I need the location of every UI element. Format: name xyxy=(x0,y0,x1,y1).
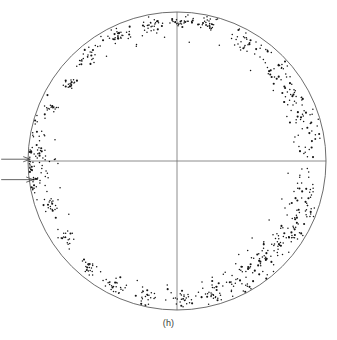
data-point xyxy=(215,286,217,288)
data-point xyxy=(273,83,275,85)
data-point xyxy=(290,231,292,233)
data-point xyxy=(276,233,278,235)
data-point xyxy=(270,69,272,71)
data-point xyxy=(44,159,46,161)
data-point xyxy=(273,250,275,252)
data-point xyxy=(239,279,241,281)
data-point xyxy=(177,25,179,27)
data-point xyxy=(120,289,122,291)
data-point xyxy=(90,55,92,57)
data-point xyxy=(309,149,311,151)
data-point xyxy=(206,16,208,18)
data-point xyxy=(263,242,265,244)
data-point xyxy=(34,119,36,121)
data-point xyxy=(254,53,256,55)
data-point xyxy=(91,52,93,54)
data-point xyxy=(35,156,37,158)
data-point xyxy=(231,283,233,285)
data-point xyxy=(275,238,277,240)
data-point xyxy=(295,90,297,92)
data-point xyxy=(181,23,183,25)
pole-figure-container: (h) xyxy=(0,0,337,340)
data-point xyxy=(210,18,212,20)
data-point xyxy=(54,139,56,141)
data-point xyxy=(296,199,298,201)
data-point xyxy=(41,165,43,167)
data-point xyxy=(316,125,318,127)
data-point xyxy=(271,76,273,78)
data-point xyxy=(148,16,150,18)
data-point xyxy=(235,263,237,265)
data-point xyxy=(68,87,70,89)
data-point xyxy=(59,187,61,189)
data-point xyxy=(280,225,282,227)
data-point xyxy=(147,25,149,27)
data-point xyxy=(211,284,213,286)
data-point xyxy=(304,151,306,153)
data-point xyxy=(44,185,46,187)
data-point xyxy=(256,253,258,255)
data-point xyxy=(51,105,53,107)
data-point xyxy=(176,303,178,305)
data-point xyxy=(116,28,118,30)
data-point xyxy=(265,62,267,64)
data-point xyxy=(301,168,303,170)
data-point xyxy=(201,281,203,283)
data-point xyxy=(34,192,36,194)
data-point xyxy=(80,63,82,65)
data-point xyxy=(97,46,99,48)
data-point xyxy=(319,137,321,139)
data-point xyxy=(247,268,249,270)
data-point xyxy=(93,62,95,64)
data-point xyxy=(222,285,224,287)
data-point xyxy=(238,254,240,256)
data-point xyxy=(69,232,71,234)
data-point xyxy=(197,23,199,25)
data-point xyxy=(89,270,91,272)
data-point xyxy=(245,32,247,34)
data-point xyxy=(185,16,187,18)
data-point xyxy=(202,22,204,24)
pole-figure-plot xyxy=(0,0,337,340)
data-point xyxy=(247,266,249,268)
data-point xyxy=(119,276,121,278)
data-point xyxy=(200,27,202,29)
data-point xyxy=(243,290,245,292)
data-point xyxy=(109,281,111,283)
data-point xyxy=(211,28,213,30)
data-point xyxy=(303,223,305,225)
data-point xyxy=(243,36,245,38)
data-point xyxy=(42,157,44,159)
data-point xyxy=(277,252,279,254)
data-point xyxy=(201,296,203,298)
data-point xyxy=(216,289,218,291)
data-point xyxy=(180,305,182,307)
data-point xyxy=(67,230,69,232)
data-point xyxy=(294,197,296,199)
data-point xyxy=(246,37,248,39)
data-point xyxy=(250,70,252,72)
data-point xyxy=(111,286,113,288)
data-point xyxy=(44,118,46,120)
data-point xyxy=(310,197,312,199)
data-point xyxy=(38,152,40,154)
data-point xyxy=(262,256,264,258)
data-point xyxy=(52,200,54,202)
data-point xyxy=(89,51,91,53)
data-point xyxy=(208,292,210,294)
data-point xyxy=(54,108,56,110)
data-point xyxy=(183,298,185,300)
data-point xyxy=(51,209,53,211)
data-point xyxy=(263,255,265,257)
data-point xyxy=(206,19,208,21)
data-point xyxy=(267,50,269,52)
data-point xyxy=(291,83,293,85)
data-point xyxy=(122,289,124,291)
data-point xyxy=(99,45,101,47)
data-point xyxy=(167,288,169,290)
data-point xyxy=(305,214,307,216)
data-point xyxy=(219,292,221,294)
data-point xyxy=(144,26,146,28)
data-point xyxy=(57,237,59,239)
data-point xyxy=(295,227,297,229)
